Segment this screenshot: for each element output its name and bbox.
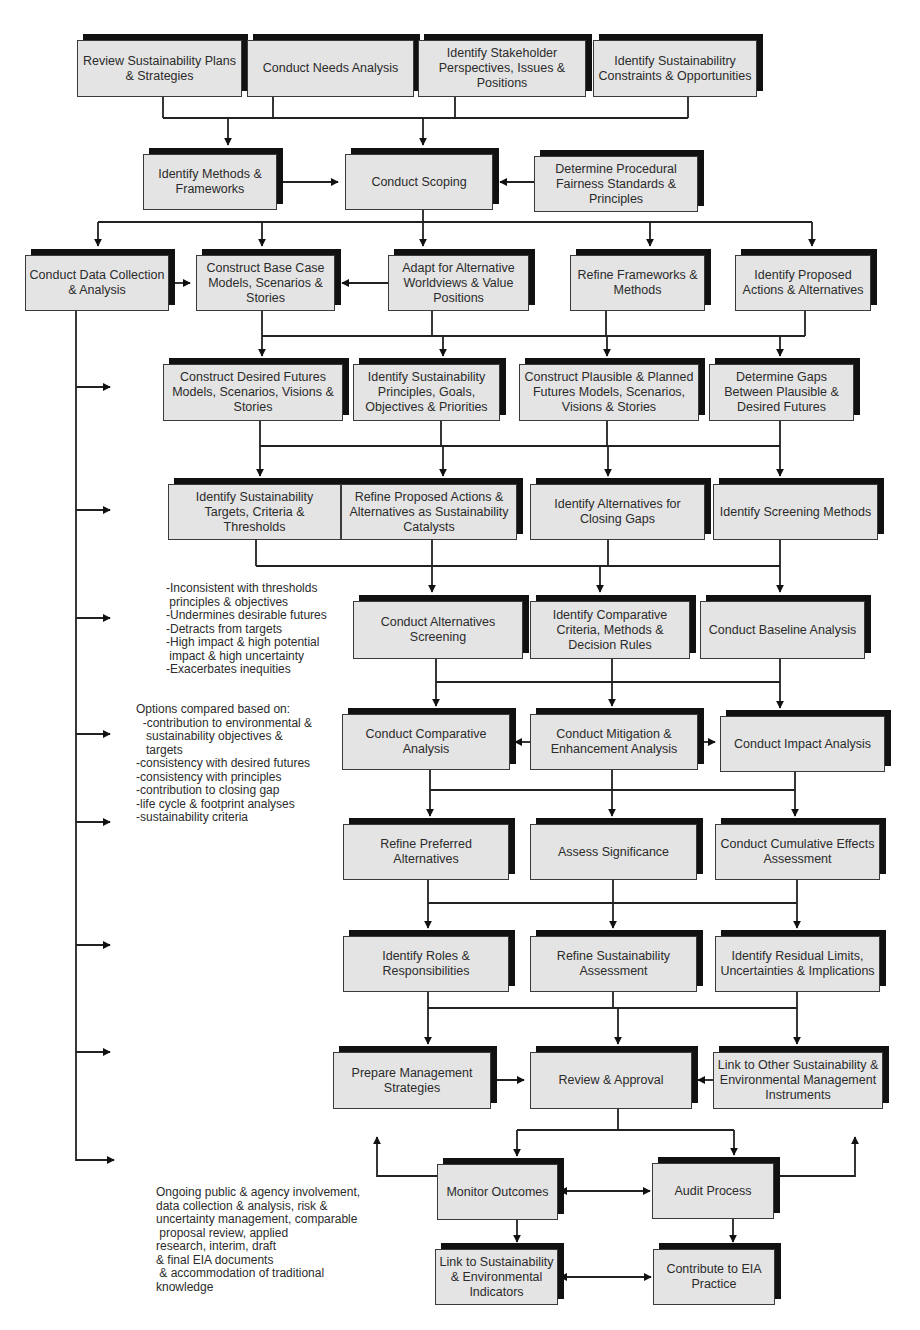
box-label: Review & Approval [530,1052,692,1109]
box-label: Identify Sustainability Targets, Criteri… [168,484,341,540]
box-label: Identify Proposed Actions & Alternatives [735,255,871,311]
box-label: Conduct Mitigation & Enhancement Analysi… [530,714,698,770]
box-label: Identify Residual Limits, Uncertainties … [715,936,880,992]
process-box-b8: Conduct Data Collection & Analysis [25,255,169,311]
box-label: Construct Base Case Models, Scenarios & … [196,255,335,311]
process-box-b6: Conduct Scoping [345,154,493,210]
box-label: Prepare Management Strategies [333,1052,491,1109]
box-label: Identify Stakeholder Perspectives, Issue… [418,40,586,97]
box-label: Review Sustainability Plans & Strategies [77,40,242,97]
process-box-b30: Identify Roles & Responsibilities [343,936,509,992]
process-box-b11: Refine Frameworks & Methods [570,255,705,311]
process-box-b4: Identify Sustainabilitry Constraints & O… [593,40,757,97]
process-box-b1: Review Sustainability Plans & Strategies [77,40,242,97]
box-label: Conduct Baseline Analysis [700,601,865,659]
box-label: Assess Significance [530,824,697,880]
box-label: Identify Roles & Responsibilities [343,936,509,992]
note-ongoing-activities: Ongoing public & agency involvement, dat… [156,1186,360,1294]
process-box-b12: Identify Proposed Actions & Alternatives [735,255,871,311]
process-box-b21: Conduct Alternatives Screening [353,601,523,659]
process-box-b19: Identify Alternatives for Closing Gaps [530,484,705,540]
box-label: Contribute to EIA Practice [653,1249,775,1305]
process-box-b31: Refine Sustainability Assessment [530,936,697,992]
box-label: Conduct Scoping [345,154,493,210]
process-box-b38: Link to Sustainability & Environmental I… [435,1249,558,1305]
box-label: Refine Proposed Actions & Alternatives a… [341,484,517,540]
box-label: Conduct Alternatives Screening [353,601,523,659]
process-box-b32: Identify Residual Limits, Uncertainties … [715,936,880,992]
process-box-b36: Monitor Outcomes [437,1164,558,1220]
box-label: Identify Methods & Frameworks [143,154,277,210]
box-label: Conduct Cumulative Effects Assessment [715,824,880,880]
process-box-b26: Conduct Impact Analysis [720,716,885,772]
box-label: Construct Plausible & Planned Futures Mo… [519,364,699,421]
box-label: Identify Alternatives for Closing Gaps [530,484,705,540]
process-box-b28: Assess Significance [530,824,697,880]
process-box-b13: Construct Desired Futures Models, Scenar… [163,364,343,421]
box-label: Conduct Comparative Analysis [342,714,510,770]
box-label: Identify Sustainability Principles, Goal… [353,364,500,421]
box-label: Adapt for Alternative Worldviews & Value… [388,255,529,311]
process-box-b27: Refine Preferred Alternatives [343,824,509,880]
box-label: Identify Sustainabilitry Constraints & O… [593,40,757,97]
box-label: Monitor Outcomes [437,1164,558,1220]
box-label: Identify Comparative Criteria, Methods &… [530,601,690,659]
box-label: Conduct Needs Analysis [247,40,414,97]
box-label: Conduct Impact Analysis [720,716,885,772]
flow-diagram: Review Sustainability Plans & Strategies… [0,0,920,1330]
process-box-b25: Conduct Mitigation & Enhancement Analysi… [530,714,698,770]
box-label: Link to Other Sustainability & Environme… [713,1052,883,1109]
process-box-b3: Identify Stakeholder Perspectives, Issue… [418,40,586,97]
box-label: Determine Gaps Between Plausible & Desir… [709,364,854,421]
process-box-b33: Prepare Management Strategies [333,1052,491,1109]
process-box-b23: Conduct Baseline Analysis [700,601,865,659]
process-box-b29: Conduct Cumulative Effects Assessment [715,824,880,880]
process-box-b2: Conduct Needs Analysis [247,40,414,97]
box-label: Refine Frameworks & Methods [570,255,705,311]
process-box-b20: Identify Screening Methods [713,484,878,540]
process-box-b34: Review & Approval [530,1052,692,1109]
process-box-b16: Determine Gaps Between Plausible & Desir… [709,364,854,421]
note-screening-criteria: -Inconsistent with thresholds principles… [166,582,327,677]
box-label: Link to Sustainability & Environmental I… [435,1249,558,1305]
box-label: Identify Screening Methods [713,484,878,540]
box-label: Refine Preferred Alternatives [343,824,509,880]
box-label: Refine Sustainability Assessment [530,936,697,992]
process-box-b39: Contribute to EIA Practice [653,1249,775,1305]
process-box-b37: Audit Process [652,1163,774,1219]
process-box-b18: Refine Proposed Actions & Alternatives a… [341,484,517,540]
process-box-b15: Construct Plausible & Planned Futures Mo… [519,364,699,421]
box-label: Audit Process [652,1163,774,1219]
note-comparison-basis: Options compared based on: -contribution… [136,703,312,825]
process-box-b5: Identify Methods & Frameworks [143,154,277,210]
box-label: Determine Procedural Fairness Standards … [534,156,698,212]
process-box-b35: Link to Other Sustainability & Environme… [713,1052,883,1109]
process-box-b14: Identify Sustainability Principles, Goal… [353,364,500,421]
process-box-b22: Identify Comparative Criteria, Methods &… [530,601,690,659]
process-box-b24: Conduct Comparative Analysis [342,714,510,770]
process-box-b7: Determine Procedural Fairness Standards … [534,156,698,212]
box-label: Construct Desired Futures Models, Scenar… [163,364,343,421]
process-box-b10: Adapt for Alternative Worldviews & Value… [388,255,529,311]
box-label: Conduct Data Collection & Analysis [25,255,169,311]
process-box-b17: Identify Sustainability Targets, Criteri… [168,484,341,540]
process-box-b9: Construct Base Case Models, Scenarios & … [196,255,335,311]
